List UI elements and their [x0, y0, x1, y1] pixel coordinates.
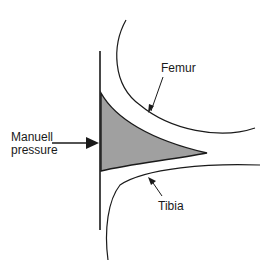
tibia-pointer-head-icon	[148, 177, 156, 185]
femur-label: Femur	[161, 62, 196, 75]
femur-outline	[117, 20, 255, 133]
pressure-label-line2: pressure	[11, 144, 58, 157]
meniscus-wedge	[101, 93, 207, 171]
tibia-label: Tibia	[158, 200, 184, 213]
pressure-arrow-head-icon	[86, 137, 99, 149]
